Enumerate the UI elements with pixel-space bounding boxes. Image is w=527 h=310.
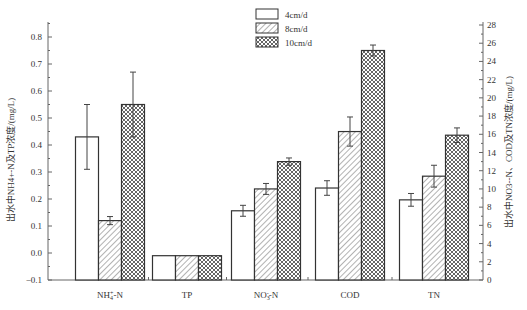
right-axis-title: 出水中NO3--N、COD及TN浓度/(mg/L) (503, 76, 514, 228)
x-tick-label: NH4+-N (97, 290, 123, 301)
right-tick-label: 26 (487, 38, 497, 48)
right-tick-label: 14 (487, 148, 497, 158)
bar-4cm-d-4 (400, 200, 423, 280)
right-tick-label: 22 (487, 75, 496, 85)
bar-8cm-d-2 (255, 189, 278, 280)
bar-8cm-d-0 (99, 221, 122, 280)
right-tick-label: 6 (487, 220, 492, 230)
right-tick-label: 12 (487, 166, 496, 176)
chart-svg: −0.10.00.10.20.30.40.50.60.70.8024681012… (0, 0, 527, 310)
left-tick-label: 0.4 (31, 140, 43, 150)
bar-4cm-d-1 (153, 256, 176, 280)
left-tick-label: 0.7 (31, 59, 43, 69)
legend-swatch (256, 9, 278, 19)
bar-10cm-d-1 (199, 256, 222, 280)
legend-label: 10cm/d (285, 38, 312, 48)
right-tick-label: 10 (487, 184, 497, 194)
left-axis-title: 出水中NH4+-N及TP浓度/(mg/L) (5, 98, 16, 223)
left-tick-label: 0.6 (31, 86, 43, 96)
x-tick-label: TN (428, 290, 440, 300)
right-tick-label: 4 (487, 239, 492, 249)
bar-4cm-d-3 (316, 188, 339, 280)
bar-4cm-d-2 (232, 211, 255, 280)
chart: −0.10.00.10.20.30.40.50.60.70.8024681012… (0, 0, 527, 310)
bar-8cm-d-3 (339, 132, 362, 280)
bar-10cm-d-4 (446, 135, 469, 280)
x-tick-label: NO3--N (254, 290, 279, 301)
legend-swatch (256, 37, 278, 47)
right-tick-label: 28 (487, 20, 497, 30)
left-tick-label: 0.3 (31, 167, 43, 177)
x-tick-label: COD (340, 290, 360, 300)
bar-8cm-d-1 (176, 256, 199, 280)
bar-8cm-d-4 (423, 176, 446, 280)
right-tick-label: 18 (487, 111, 497, 121)
bar-10cm-d-3 (362, 51, 385, 281)
right-tick-label: 2 (487, 257, 492, 267)
right-tick-label: 16 (487, 129, 497, 139)
left-tick-label: 0.2 (31, 194, 42, 204)
legend-label: 8cm/d (285, 24, 308, 34)
left-tick-label: 0.1 (31, 221, 42, 231)
legend-swatch (256, 23, 278, 33)
left-tick-label: 0.5 (31, 113, 43, 123)
left-tick-label: 0.0 (31, 248, 43, 258)
left-tick-label: 0.8 (31, 32, 43, 42)
left-tick-label: −0.1 (26, 275, 42, 285)
right-tick-label: 0 (487, 275, 492, 285)
right-tick-label: 8 (487, 202, 492, 212)
legend-label: 4cm/d (285, 10, 308, 20)
right-tick-label: 20 (487, 93, 497, 103)
right-tick-label: 24 (487, 56, 497, 66)
x-tick-label: TP (182, 290, 193, 300)
bar-10cm-d-2 (278, 162, 301, 280)
